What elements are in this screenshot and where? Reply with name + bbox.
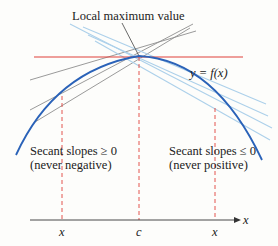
left-note-line2: (never negative): [30, 158, 112, 172]
right-note-line2: (never positive): [169, 158, 248, 172]
tick-c: c: [136, 225, 142, 239]
right-note-line1: Secant slopes ≤ 0: [169, 144, 256, 158]
axis-label: x: [243, 213, 249, 227]
tick-x-right: x: [212, 225, 218, 239]
left-note-line1: Secant slopes ≥ 0: [30, 144, 117, 158]
title-label: Local maximum value: [72, 9, 184, 23]
left-secants: [30, 24, 196, 122]
tick-x-left: x: [59, 225, 65, 239]
axis-arrow-icon: [234, 217, 241, 223]
curve-label: y = f(x): [190, 66, 228, 80]
diagram-canvas: [0, 0, 278, 246]
